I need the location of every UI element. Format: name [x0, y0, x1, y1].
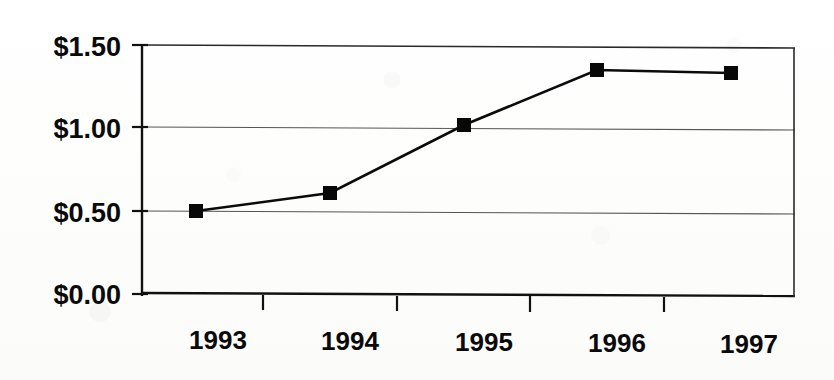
- y-axis-tick-labels: $1.50 $1.00 $0.50 $0.00: [53, 32, 121, 310]
- data-point-1994: [324, 187, 337, 200]
- line-chart: $1.50 $1.00 $0.50 $0.00: [0, 0, 834, 380]
- x-tick-label-1993: 1993: [189, 325, 247, 355]
- chart-page: $1.50 $1.00 $0.50 $0.00: [0, 0, 834, 380]
- y-tick-label-1-00: $1.00: [53, 114, 121, 144]
- x-tick-label-1995: 1995: [455, 327, 513, 357]
- data-point-1993: [190, 205, 203, 218]
- y-tick-label-0-00: $0.00: [53, 280, 121, 310]
- x-axis-line: [141, 293, 795, 296]
- data-point-1995: [458, 119, 471, 132]
- x-tick-label-1996: 1996: [588, 328, 646, 358]
- y-tick-label-0-50: $0.50: [53, 198, 121, 228]
- y-tick-label-1-50: $1.50: [53, 32, 121, 62]
- series-polyline: [196, 70, 731, 211]
- data-point-1997: [725, 67, 738, 80]
- gridline-0-50: [141, 211, 795, 214]
- plot-frame: [141, 44, 795, 297]
- x-axis-tick-labels: 1993 1994 1995 1996 1997: [189, 325, 778, 359]
- data-point-1996: [591, 64, 604, 77]
- x-tick-label-1997: 1997: [720, 329, 778, 359]
- data-series: [190, 64, 738, 218]
- x-tick-label-1994: 1994: [321, 326, 379, 356]
- y-axis-tick-marks: [132, 45, 148, 294]
- gridline-1-50: [141, 45, 795, 48]
- x-axis-tick-marks: [263, 295, 664, 312]
